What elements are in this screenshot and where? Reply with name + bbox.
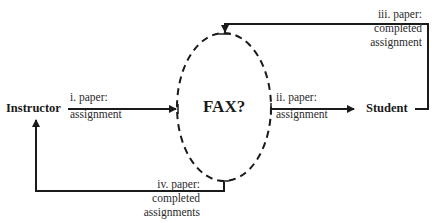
edge-iii-line-3: assignment <box>370 35 422 49</box>
edge-iv-label: iv. paper: completed assignments <box>144 177 200 219</box>
edge-ii-line-2: assignment <box>276 107 328 121</box>
edge-iv-line-1: iv. paper: <box>144 177 200 191</box>
edge-iii-line-1: iii. paper: <box>370 7 422 21</box>
edge-ii-line-1: ii. paper: <box>276 90 328 104</box>
edge-i-label: i. paper: assignment <box>70 90 122 121</box>
edge-iv-line-3: assignments <box>144 205 200 219</box>
edge-i-line-1: i. paper: <box>70 90 122 104</box>
edge-ii-label: ii. paper: assignment <box>276 90 328 121</box>
edge-i-line-2: assignment <box>70 107 122 121</box>
student-node: Student <box>366 101 408 116</box>
edge-iv-line-2: completed <box>144 191 200 205</box>
edge-iii-line-2: completed <box>370 21 422 35</box>
fax-label: FAX? <box>203 97 245 117</box>
instructor-node: Instructor <box>6 101 61 116</box>
edge-iii-label: iii. paper: completed assignment <box>370 7 422 49</box>
